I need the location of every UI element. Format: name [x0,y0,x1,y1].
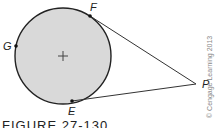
tangent-diagram [0,0,219,128]
point-f-dot [88,14,92,18]
label-e: E [68,106,75,117]
label-g: G [3,41,12,52]
figure-caption: FIGURE 27-130 [2,118,108,128]
copyright-text: © Cengage Learning 2013 [206,36,213,118]
point-g-dot [14,44,18,48]
point-e-dot [70,99,74,103]
label-f: F [90,2,97,13]
